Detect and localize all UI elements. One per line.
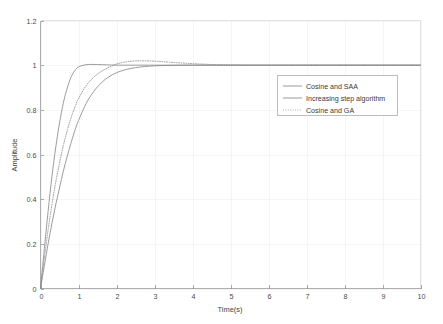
y-tick-label: 0.6: [27, 151, 37, 160]
x-tick-label: 7: [306, 292, 310, 301]
y-axis-title: Amplitude: [10, 139, 19, 172]
legend-label-2: Cosine and GA: [306, 107, 354, 115]
x-axis-title: Time(s): [218, 305, 243, 314]
x-tick-label: 2: [116, 292, 120, 301]
x-tick-label: 5: [230, 292, 234, 301]
x-tick-label: 0: [40, 292, 44, 301]
y-tick-label: 0.8: [27, 106, 37, 115]
x-tick-label: 9: [382, 292, 386, 301]
figure-background: [0, 0, 443, 324]
legend-label-0: Cosine and SAA: [306, 83, 358, 91]
step-response-figure: 012345678910 00.20.40.60.811.2 Time(s) A…: [0, 0, 443, 324]
x-tick-label: 8: [344, 292, 348, 301]
x-tick-label: 3: [154, 292, 158, 301]
y-tick-label: 1: [33, 61, 37, 70]
x-tick-label: 4: [192, 292, 196, 301]
legend-label-1: Increasing step algorithm: [306, 95, 385, 103]
y-tick-label: 0.4: [27, 195, 37, 204]
x-tick-label: 6: [268, 292, 272, 301]
legend: Cosine and SAAIncreasing step algorithmC…: [278, 76, 398, 116]
y-tick-label: 0.2: [27, 240, 37, 249]
y-tick-label: 1.2: [27, 17, 37, 26]
x-tick-label: 10: [418, 292, 426, 301]
x-tick-label: 1: [78, 292, 82, 301]
y-tick-label: 0: [33, 285, 37, 294]
